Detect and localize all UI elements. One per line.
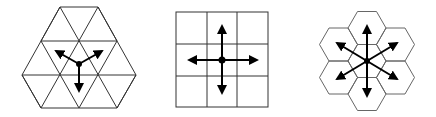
triangular-grid-panel bbox=[22, 7, 136, 108]
grid-neighborhood-diagram bbox=[0, 0, 436, 117]
square-arrows bbox=[189, 26, 257, 93]
arrow-down-left-icon bbox=[337, 61, 367, 79]
arrow-down-right-icon bbox=[367, 61, 397, 79]
arrow-up-left-icon bbox=[337, 43, 367, 61]
arrow-up-right-icon bbox=[367, 43, 397, 61]
triangular-arrows bbox=[56, 51, 102, 91]
